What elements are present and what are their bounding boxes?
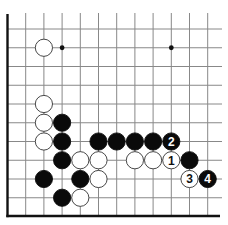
white-stone	[145, 152, 162, 169]
black-stone-icon	[72, 170, 89, 187]
star-point-icon	[60, 45, 65, 50]
white-stone-move-3: 3	[181, 170, 198, 187]
white-stone-icon	[35, 114, 52, 131]
black-stone	[90, 133, 107, 150]
white-stone-icon	[35, 133, 52, 150]
white-stone-icon	[90, 170, 107, 187]
white-stone	[126, 152, 143, 169]
black-stone-icon	[35, 170, 52, 187]
black-stone	[35, 170, 52, 187]
black-stone-icon	[54, 189, 71, 206]
black-stone-icon	[90, 133, 107, 150]
white-stone	[35, 114, 52, 131]
black-stone	[181, 152, 198, 169]
black-stone-move-4: 4	[199, 170, 216, 187]
white-stone	[90, 170, 107, 187]
black-stone-icon	[54, 152, 71, 169]
black-stone	[145, 133, 162, 150]
black-stone	[54, 114, 71, 131]
black-stone	[126, 133, 143, 150]
black-stone	[72, 170, 89, 187]
star-point-icon	[169, 45, 174, 50]
black-stone	[108, 133, 125, 150]
move-number-label: 4	[204, 172, 211, 186]
black-stone-icon	[108, 133, 125, 150]
move-number-label: 2	[168, 135, 175, 149]
white-stone-icon	[126, 152, 143, 169]
white-stone	[72, 152, 89, 169]
white-stone	[35, 39, 52, 56]
white-stone-icon	[35, 95, 52, 112]
white-stone-icon	[72, 189, 89, 206]
black-stone-icon	[145, 133, 162, 150]
white-stone-move-1: 1	[163, 152, 180, 169]
black-stone	[54, 152, 71, 169]
move-number-label: 1	[168, 154, 175, 168]
white-stone-icon	[145, 152, 162, 169]
white-stone-icon	[72, 152, 89, 169]
black-stone-move-2: 2	[163, 133, 180, 150]
white-stone	[90, 152, 107, 169]
black-stone	[54, 133, 71, 150]
black-stone-icon	[181, 152, 198, 169]
white-stone-icon	[90, 152, 107, 169]
white-stone	[35, 95, 52, 112]
move-number-label: 3	[186, 172, 193, 186]
black-stone-icon	[54, 133, 71, 150]
white-stone	[35, 133, 52, 150]
black-stone-icon	[126, 133, 143, 150]
white-stone	[72, 189, 89, 206]
white-stone-icon	[35, 39, 52, 56]
black-stone-icon	[54, 114, 71, 131]
go-board: 2134	[0, 0, 228, 225]
black-stone	[54, 189, 71, 206]
